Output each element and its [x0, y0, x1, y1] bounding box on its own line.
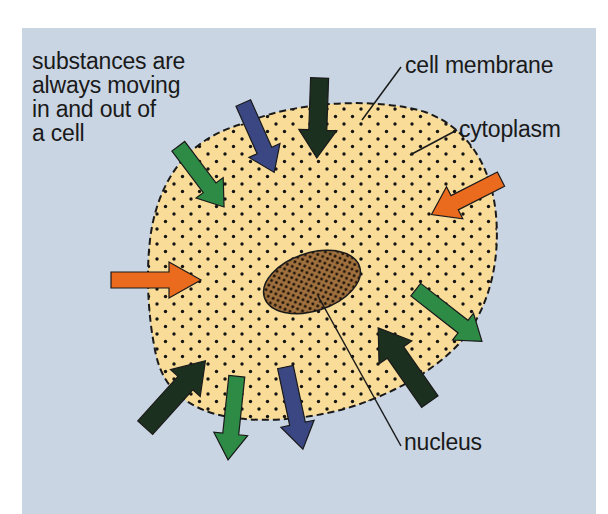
intro-line-1: substances are	[32, 49, 185, 73]
cell-membrane-label: cell membrane	[405, 53, 553, 77]
intro-caption: substances are always moving in and out …	[32, 49, 185, 145]
intro-line-4: a cell	[32, 121, 185, 145]
intro-line-2: always moving	[32, 73, 185, 97]
nucleus-label: nucleus	[404, 430, 482, 454]
cytoplasm-label: cytoplasm	[459, 117, 561, 141]
intro-line-3: in and out of	[32, 97, 185, 121]
